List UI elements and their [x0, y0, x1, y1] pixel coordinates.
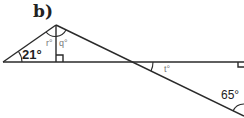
angle-arc-t: [151, 62, 153, 71]
angle-label-t: t°: [164, 64, 171, 74]
right-angle-marker-right: [238, 62, 244, 67]
angle-label-q: q°: [59, 38, 68, 48]
geometry-figure: b) 21° r° q° t° 65°: [0, 0, 244, 118]
transversal-line: [56, 25, 244, 116]
angle-label-r: r°: [46, 38, 53, 48]
angle-label-65: 65°: [221, 88, 239, 102]
part-label: b): [33, 1, 53, 21]
angle-arc-65: [233, 104, 244, 111]
right-angle-marker-foot: [56, 55, 63, 62]
angle-label-21: 21°: [22, 47, 42, 62]
